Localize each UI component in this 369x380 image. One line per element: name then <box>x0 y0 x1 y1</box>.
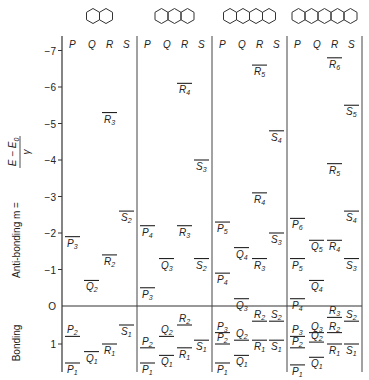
energy-level: S5 <box>344 105 359 118</box>
tick-label: −7 <box>45 46 57 57</box>
level-label: S2 <box>346 309 357 321</box>
level-label: R1 <box>329 345 340 357</box>
energy-level: Q2 <box>234 328 249 340</box>
level-label: S3 <box>196 161 207 173</box>
energy-level: S3 <box>344 259 359 272</box>
level-label: Q4 <box>236 249 248 261</box>
energy-level: R3 <box>102 113 117 126</box>
energy-level: S1 <box>194 340 209 353</box>
level-label: R3 <box>254 260 265 272</box>
level-label: R4 <box>329 241 340 253</box>
level-label: Q1 <box>161 356 173 368</box>
level-label: R3 <box>179 227 190 239</box>
tick-label: −1 <box>45 265 57 276</box>
level-label: S2 <box>196 260 207 272</box>
level-label: R1 <box>104 345 115 357</box>
tick-label: −6 <box>45 82 57 93</box>
molecule-tetracene: PQRSR5S4R4P5S3Q4R3P4Q3R2S2P3Q2R1S1P2Q1P1 <box>215 9 284 377</box>
level-label: Q2 <box>161 324 173 336</box>
energy-level: R2 <box>102 255 117 268</box>
energy-level: P1 <box>140 363 155 376</box>
energy-level: R4 <box>252 193 267 206</box>
acene-structure-icon <box>155 9 194 24</box>
energy-level: P4 <box>215 273 230 286</box>
column-header-Q: Q <box>88 39 96 50</box>
level-label: P1 <box>67 364 78 376</box>
energy-level: Q1 <box>234 355 249 368</box>
energy-level: Q1 <box>84 352 99 365</box>
level-label: S4 <box>271 132 282 144</box>
level-label: P2 <box>217 332 228 344</box>
energy-level: R1 <box>102 344 117 357</box>
level-label: R5 <box>254 66 265 78</box>
energy-level: Q1 <box>159 355 174 368</box>
energy-level: R1 <box>177 348 192 361</box>
bonding-label: Bonding <box>11 325 22 362</box>
column-header-S: S <box>348 39 355 50</box>
column-header-P: P <box>144 39 151 50</box>
level-label: P3 <box>67 238 78 250</box>
level-label: P3 <box>217 321 228 333</box>
energy-level: S4 <box>344 211 359 224</box>
column-header-S: S <box>123 39 130 50</box>
energy-level: Q5 <box>309 240 324 253</box>
energy-level: P3 <box>65 237 80 250</box>
level-label: S4 <box>346 212 357 224</box>
molecule-anthracene: PQRSR4S3P4R3Q3S2P3R2Q2S1P2R1Q1P1 <box>140 9 209 377</box>
energy-level: P1 <box>215 363 230 376</box>
molecule-naphthalene: PQRSR3S2P3R2Q2S1P2R1Q1P1 <box>65 9 134 377</box>
level-label: Q4 <box>311 281 323 293</box>
level-label: R6 <box>329 59 340 71</box>
energy-level: S1 <box>119 325 134 338</box>
level-label: Q1 <box>86 353 98 365</box>
energy-level: R2 <box>327 321 342 333</box>
level-label: Q2 <box>236 328 248 340</box>
level-label: P6 <box>292 219 303 231</box>
level-label: R3 <box>329 305 340 317</box>
column-header-P: P <box>69 39 76 50</box>
tick-label: −5 <box>45 119 57 130</box>
level-label: R4 <box>179 84 190 96</box>
energy-level: R3 <box>327 305 342 317</box>
energy-level-diagram: −7−6−5−4−3−2−1O1Anti-bonding m =E − E0γB… <box>0 0 369 380</box>
column-header-R: R <box>106 39 113 50</box>
energy-level: Q3 <box>234 299 249 312</box>
level-label: S5 <box>346 106 357 118</box>
energy-level: Q1 <box>309 357 324 370</box>
tick-label: −2 <box>45 228 57 239</box>
level-label: P5 <box>217 223 228 235</box>
energy-level: R3 <box>177 226 192 239</box>
level-label: P1 <box>292 366 303 378</box>
level-label: P5 <box>292 260 303 272</box>
tick-label: −4 <box>45 155 57 166</box>
energy-level: P1 <box>65 363 80 376</box>
level-label: S1 <box>271 341 282 353</box>
level-label: R3 <box>104 114 115 126</box>
energy-level: S3 <box>194 160 209 173</box>
column-header-R: R <box>256 39 263 50</box>
level-label: S1 <box>121 326 132 338</box>
level-label: P3 <box>292 324 303 336</box>
column-header-S: S <box>273 39 280 50</box>
energy-level: P2 <box>65 324 80 336</box>
energy-level: S1 <box>344 344 359 357</box>
tick-label: −3 <box>45 192 57 203</box>
column-header-R: R <box>331 39 338 50</box>
energy-level: P5 <box>290 259 305 272</box>
level-label: R1 <box>179 349 190 361</box>
level-label: S2 <box>271 309 282 321</box>
energy-level: R4 <box>177 83 192 96</box>
level-label: P4 <box>142 227 153 239</box>
energy-level: P2 <box>290 336 305 348</box>
energy-level: S2 <box>344 309 359 321</box>
acene-structure-icon <box>87 9 113 24</box>
column-header-Q: Q <box>238 39 246 50</box>
energy-level: R2 <box>252 309 267 321</box>
level-label: R2 <box>254 309 265 321</box>
level-label: R2 <box>104 256 115 268</box>
level-label: Q3 <box>236 300 248 312</box>
energy-level: P6 <box>290 218 305 231</box>
level-label: R1 <box>254 341 265 353</box>
level-label: P2 <box>67 324 78 336</box>
energy-level: S2 <box>119 211 134 224</box>
